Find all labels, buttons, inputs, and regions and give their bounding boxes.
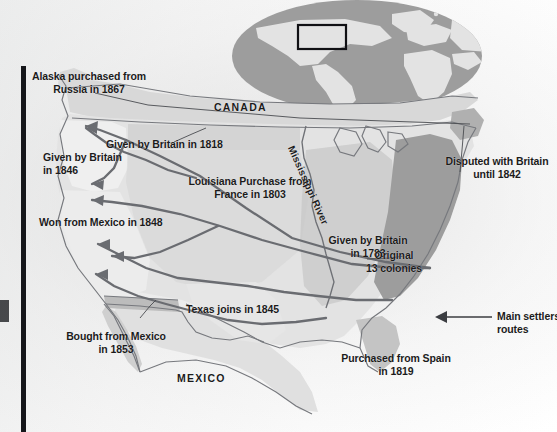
label-mexican-cession-1848: Won from Mexico in 1848 xyxy=(39,216,163,229)
label-canada: CANADA xyxy=(214,101,267,114)
label-gadsden-purchase-1853: Bought from Mexico in 1853 xyxy=(56,330,176,355)
page-edge-smudge xyxy=(0,300,9,322)
legend-settlers-routes: Main settlers' routes xyxy=(497,310,557,335)
label-texas-1845: Texas joins in 1845 xyxy=(186,303,279,316)
map-page: Alaska purchased from Russia in 1867 CAN… xyxy=(0,0,557,432)
label-alaska-purchase: Alaska purchased from Russia in 1867 xyxy=(14,70,164,95)
label-florida-purchase: Purchased from Spain in 1819 xyxy=(326,352,466,377)
label-mexico: MEXICO xyxy=(177,372,226,385)
legend-arrow-icon xyxy=(435,311,492,323)
label-thirteen-colonies: Original 13 colonies xyxy=(350,249,438,274)
book-spine-bar xyxy=(21,66,26,432)
label-maine-disputed: Disputed with Britain until 1842 xyxy=(440,155,554,180)
label-cession-1818: Given by Britain in 1818 xyxy=(106,138,223,151)
label-oregon-1846: Given by Britain in 1846 xyxy=(43,151,122,176)
